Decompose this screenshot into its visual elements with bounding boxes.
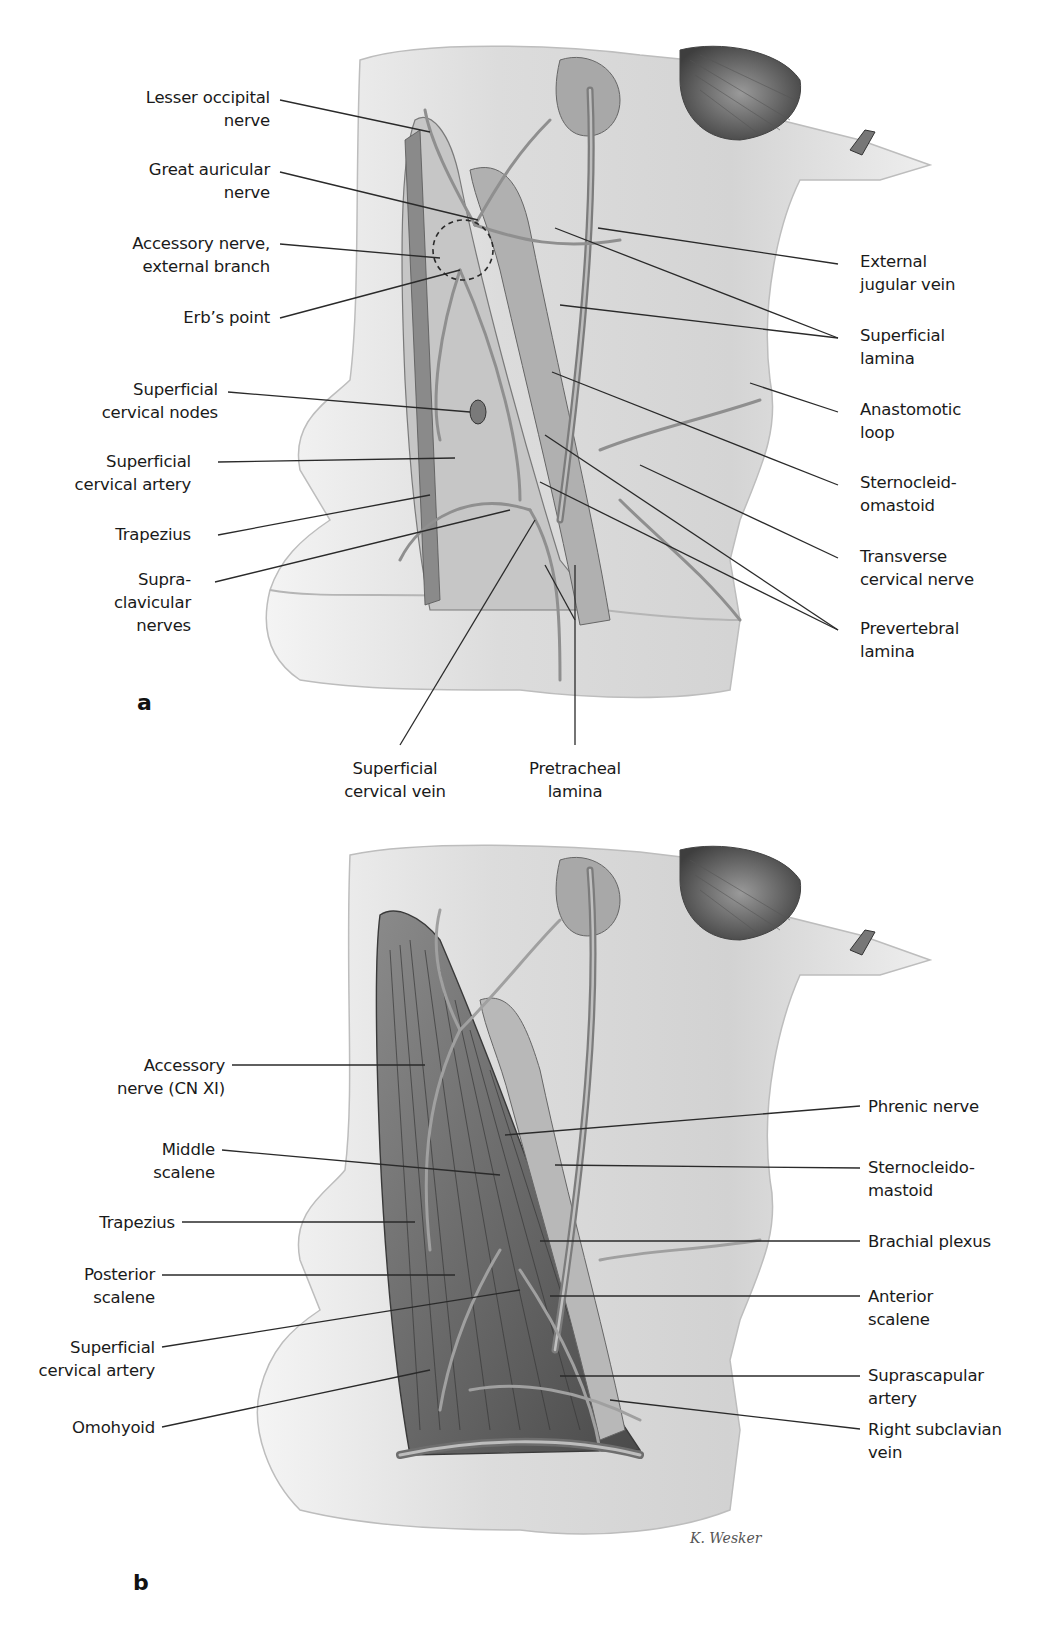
panel-letter-a: a	[137, 690, 152, 715]
label-middle-scalene: Middle scalene	[153, 1138, 215, 1184]
label-trapezius-a: Trapezius	[115, 523, 191, 546]
panel-a: Lesser occipital nerve Great auricular n…	[0, 0, 1061, 810]
label-anterior-scalene: Anterior scalene	[868, 1285, 933, 1331]
label-trapezius-b: Trapezius	[99, 1211, 175, 1234]
label-phrenic-nerve: Phrenic nerve	[868, 1095, 979, 1118]
label-great-auricular-nerve: Great auricular nerve	[149, 158, 270, 204]
label-accessory-nerve-external-branch: Accessory nerve, external branch	[132, 232, 270, 278]
label-brachial-plexus: Brachial plexus	[868, 1230, 991, 1253]
label-right-subclavian-vein: Right subclavian vein	[868, 1418, 1002, 1464]
label-transverse-cervical-nerve: Transverse cervical nerve	[860, 545, 974, 591]
panel-letter-b: b	[133, 1570, 149, 1595]
label-sternocleidomastoid-a: Sternocleid- omastoid	[860, 471, 957, 517]
label-superficial-cervical-artery: Superficial cervical artery	[75, 450, 191, 496]
label-superficial-cervical-artery-b: Superficial cervical artery	[39, 1336, 155, 1382]
label-sternocleidomastoid-b: Sternocleido- mastoid	[868, 1156, 975, 1202]
artist-signature: K. Wesker	[690, 1530, 762, 1546]
label-posterior-scalene: Posterior scalene	[84, 1263, 155, 1309]
label-superficial-lamina: Superficial lamina	[860, 324, 945, 370]
label-omohyoid: Omohyoid	[72, 1416, 155, 1439]
label-prevertebral-lamina: Prevertebral lamina	[860, 617, 959, 663]
label-superficial-cervical-vein: Superficial cervical vein	[330, 757, 460, 803]
label-accessory-nerve-cn-xi: Accessory nerve (CN XI)	[117, 1054, 225, 1100]
label-supraclavicular-nerves: Supra- clavicular nerves	[114, 568, 191, 637]
label-lesser-occipital-nerve: Lesser occipital nerve	[146, 86, 270, 132]
label-erbs-point: Erb’s point	[183, 306, 270, 329]
label-external-jugular-vein: External jugular vein	[860, 250, 955, 296]
label-pretracheal-lamina: Pretracheal lamina	[515, 757, 635, 803]
label-superficial-cervical-nodes: Superficial cervical nodes	[102, 378, 218, 424]
panel-b: Accessory nerve (CN XI) Middle scalene T…	[0, 830, 1061, 1628]
label-anastomotic-loop: Anastomotic loop	[860, 398, 961, 444]
label-suprascapular-artery: Suprascapular artery	[868, 1364, 984, 1410]
